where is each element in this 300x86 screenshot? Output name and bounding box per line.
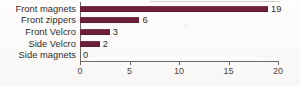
category-label: Side Velcro	[28, 39, 76, 49]
bar-row: Side magnets0	[0, 49, 300, 61]
category-label: Front Velcro	[25, 27, 76, 37]
bar-value-label: 6	[142, 15, 147, 25]
bar-value-label: 0	[83, 50, 88, 60]
x-tick-label: 0	[77, 66, 82, 76]
category-label: Side magnets	[19, 50, 76, 60]
bar	[80, 6, 268, 12]
bar-value-label: 19	[271, 4, 281, 14]
x-tick-mark	[229, 62, 230, 65]
x-tick-label: 15	[223, 66, 233, 76]
bar	[80, 17, 139, 23]
x-tick-label: 20	[273, 66, 283, 76]
x-tick-mark	[80, 62, 81, 65]
bar-row: Front magnets19	[0, 3, 300, 15]
x-tick-label: 5	[127, 66, 132, 76]
bar-row: Side Velcro2	[0, 38, 300, 50]
bar-row: Front zippers6	[0, 15, 300, 27]
bar-value-label: 2	[103, 39, 108, 49]
x-tick-mark	[278, 62, 279, 65]
bar-value-label: 3	[113, 27, 118, 37]
x-tick-mark	[130, 62, 131, 65]
bar-row: Front Velcro3	[0, 26, 300, 38]
x-tick-mark	[179, 62, 180, 65]
bar	[80, 29, 110, 35]
category-label: Front magnets	[15, 4, 76, 14]
bar-chart: 05101520 Front magnets19Front zippers6Fr…	[0, 0, 300, 86]
scan-artifact-line	[150, 1, 280, 2]
category-label: Front zippers	[21, 15, 76, 25]
x-tick-label: 10	[174, 66, 184, 76]
bar	[80, 41, 100, 47]
